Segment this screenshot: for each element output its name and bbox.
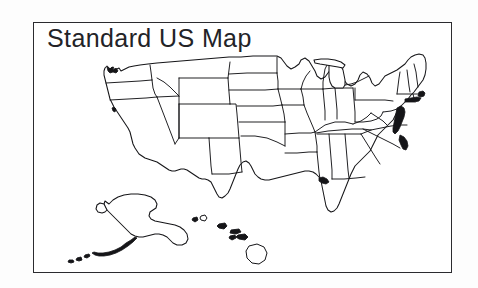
hawaii-island-maui (236, 234, 248, 240)
us-map-graphic (33, 22, 452, 273)
contiguous-us-outline (104, 54, 426, 212)
cape-cod-detail (418, 91, 425, 97)
alaska-inset (68, 194, 188, 263)
hawaii-island-molokai (230, 229, 241, 234)
hawaii-island-kauai (200, 215, 207, 221)
puget-sound-detail (107, 67, 118, 73)
aleutian-island-3 (68, 260, 74, 263)
figure-container: Standard US Map (0, 0, 478, 288)
aleutian-island-1 (84, 254, 90, 258)
alaska-mainland-outline (104, 194, 188, 245)
hawaii-island-oahu (217, 223, 227, 229)
aleutian-chain (92, 237, 137, 256)
aleutian-island-2 (76, 257, 82, 261)
hawaii-island-niihau (192, 217, 198, 222)
contiguous-us-region (104, 54, 426, 212)
hawaii-inset (192, 215, 267, 264)
hawaii-island-big-island (246, 244, 267, 264)
hawaii-island-lanai (229, 235, 236, 240)
